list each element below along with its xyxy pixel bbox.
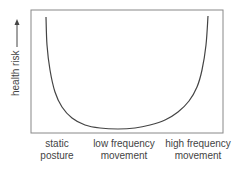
- arrow-up-icon: [15, 19, 20, 25]
- x-label-line1: low frequency: [93, 138, 155, 150]
- plot-frame: [31, 10, 223, 133]
- x-label-high-frequency-movement: high frequency movement: [165, 138, 231, 162]
- health-risk-curve: [46, 16, 208, 129]
- x-label-line2: movement: [93, 150, 155, 162]
- x-label-line1: high frequency: [165, 138, 231, 150]
- x-label-line2: posture: [40, 150, 73, 162]
- x-label-static-posture: static posture: [40, 138, 73, 162]
- x-label-low-frequency-movement: low frequency movement: [93, 138, 155, 162]
- x-label-line1: static: [40, 138, 73, 150]
- y-axis-label: health risk: [10, 50, 21, 96]
- x-label-line2: movement: [165, 150, 231, 162]
